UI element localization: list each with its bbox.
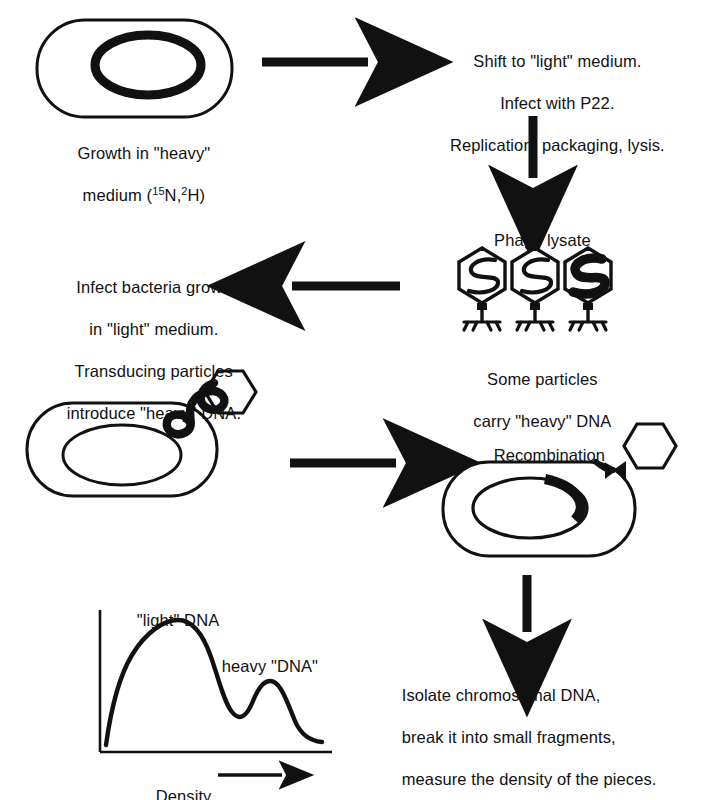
isolate-line1: Isolate chromosomal DNA, (402, 686, 601, 704)
recombination-label: Recombination (450, 424, 630, 487)
figure-canvas: Growth in "heavy" medium (15N,2H) Shift … (0, 0, 703, 800)
isolate-line3: measure the density of the pieces. (402, 770, 657, 788)
shift-line3: Replication, packaging, lysis. (450, 136, 665, 154)
recombination-text: Recombination (494, 446, 605, 464)
growth-heavy-label: Growth in "heavy" medium (15N,2H) (12, 122, 257, 227)
chart-xlabel-text: Density (156, 787, 212, 800)
isotope-n-label: N, (165, 186, 182, 204)
isolate-dna-label: Isolate chromosomal DNA, break it into s… (383, 664, 703, 800)
infect-line4: introduce "heavy" DNA. (67, 404, 241, 422)
nucleoid-heavy-icon (95, 35, 201, 95)
nucleoid-recombinant-icon (473, 478, 587, 538)
tail-fibers-icon (570, 322, 606, 330)
isolate-line2: break it into small fragments, (402, 728, 616, 746)
phage-lysate-text: Phage lysate (494, 231, 591, 249)
chart-xlabel: Density (137, 765, 257, 800)
light-dna-annotation-text: "light" DNA (137, 611, 220, 629)
chart-annotation-heavy-dna: heavy "DNA" (203, 635, 373, 698)
some-particles-line1: Some particles (487, 370, 598, 388)
heavy-dna-annotation-text: heavy "DNA" (222, 657, 318, 675)
tail-fibers-icon (517, 322, 553, 330)
isotope-h-label: H) (188, 186, 206, 204)
tail-fibers-icon (464, 322, 500, 330)
phage-neck-icon (477, 303, 487, 310)
infect-light-label: Infect bacteria grown in "light" medium.… (12, 256, 277, 445)
shift-line2: Infect with P22. (500, 94, 614, 112)
bacterium-heavy-group (37, 20, 232, 117)
phage-neck-icon (530, 303, 540, 310)
phage-lysate-label: Phage lysate (433, 209, 633, 272)
infect-line2: in "light" medium. (89, 320, 218, 338)
growth-heavy-line1: Growth in "heavy" (78, 144, 211, 162)
phage-neck-icon (583, 303, 593, 310)
infect-line1: Infect bacteria grown (76, 278, 231, 296)
bacterium-heavy-body (37, 20, 232, 117)
shift-line1: Shift to "light" medium. (473, 52, 641, 70)
growth-heavy-line2-pre: medium ( (83, 186, 153, 204)
isotope-15-superscript: 15 (152, 185, 164, 197)
infect-line3: Transducing particles (75, 362, 233, 380)
shift-step-label: Shift to "light" medium. Infect with P22… (398, 30, 698, 177)
